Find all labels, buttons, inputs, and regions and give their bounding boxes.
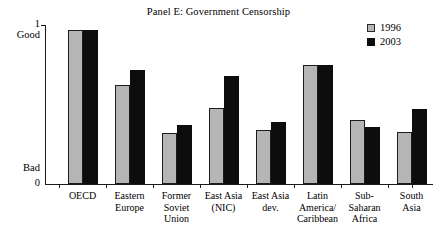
x-axis-label: SouthAsia xyxy=(385,190,437,213)
bar-1996-east-asia-nic- xyxy=(209,108,224,184)
bar-pair xyxy=(390,25,434,184)
bar-pair xyxy=(61,25,105,184)
bar-2003-eastern-europe xyxy=(130,70,145,184)
x-axis-label: EasternEurope xyxy=(103,190,157,213)
x-axis-tick xyxy=(200,184,201,188)
bar-1996-sub-saharan-africa xyxy=(350,120,365,184)
bar-pair xyxy=(296,25,340,184)
bar-2003-east-asia-nic- xyxy=(224,76,239,184)
government-censorship-chart: Panel E: Government Censorship 1996 2003… xyxy=(0,0,437,246)
x-axis-tick xyxy=(106,184,107,188)
bar-2003-oecd xyxy=(83,30,98,184)
x-axis-label: East Asia(NIC) xyxy=(197,190,251,213)
x-axis-label: FormerSovietUnion xyxy=(150,190,204,225)
bar-pair xyxy=(343,25,387,184)
y-axis-bottom-label: Bad xyxy=(0,162,40,173)
bar-group: LatinAmerica/Caribbean xyxy=(296,25,340,184)
x-axis-tick xyxy=(412,184,413,188)
bar-group: EasternEurope xyxy=(108,25,152,184)
bar-group: East Asiadev. xyxy=(249,25,293,184)
bar-1996-latin-america-caribbean xyxy=(303,65,318,184)
x-axis-line xyxy=(45,184,433,185)
y-axis-top-label: Good xyxy=(0,29,40,40)
bar-2003-former-soviet-union xyxy=(177,125,192,184)
bar-1996-former-soviet-union xyxy=(162,133,177,184)
bar-2003-sub-saharan-africa xyxy=(365,127,380,184)
bar-1996-east-asia-dev- xyxy=(256,130,271,184)
x-axis-tick xyxy=(388,184,389,188)
x-axis-tick xyxy=(153,184,154,188)
y-axis-bottom-value: 0 xyxy=(0,177,40,188)
x-axis-label: East Asiadev. xyxy=(244,190,298,213)
bar-pair xyxy=(202,25,246,184)
bar-2003-east-asia-dev- xyxy=(271,122,286,184)
chart-title: Panel E: Government Censorship xyxy=(0,6,437,17)
bar-pair xyxy=(108,25,152,184)
x-axis-tick xyxy=(247,184,248,188)
y-axis-line xyxy=(45,25,46,184)
bar-group: OECD xyxy=(61,25,105,184)
bar-1996-eastern-europe xyxy=(115,85,130,184)
x-axis-label: LatinAmerica/Caribbean xyxy=(291,190,345,225)
bar-group: FormerSovietUnion xyxy=(155,25,199,184)
x-axis-label: Sub-SaharanAfrica xyxy=(338,190,392,225)
bar-2003-latin-america-caribbean xyxy=(318,65,333,184)
bar-2003-south-asia xyxy=(412,109,427,184)
bar-group: SouthAsia xyxy=(390,25,434,184)
x-axis-label: OECD xyxy=(56,190,110,202)
bar-1996-south-asia xyxy=(397,132,412,184)
bar-group: Sub-SaharanAfrica xyxy=(343,25,387,184)
bar-group: East Asia(NIC) xyxy=(202,25,246,184)
x-axis-tick xyxy=(341,184,342,188)
plot-area: OECDEasternEuropeFormerSovietUnionEast A… xyxy=(45,25,433,184)
x-axis-tick xyxy=(294,184,295,188)
bar-pair xyxy=(249,25,293,184)
y-axis-top-value: 1 xyxy=(0,18,40,29)
x-axis-tick xyxy=(59,184,60,188)
y-axis-tick-top xyxy=(41,25,45,26)
bar-1996-oecd xyxy=(68,30,83,184)
bar-pair xyxy=(155,25,199,184)
